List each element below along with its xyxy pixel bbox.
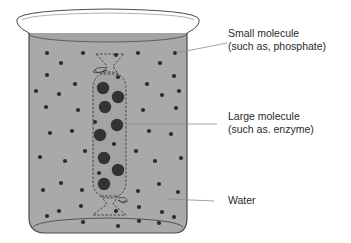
small-molecule-dot [63, 159, 67, 163]
small-molecule-dot [177, 89, 181, 93]
small-molecule-dot [97, 171, 101, 175]
small-molecule-dot [169, 132, 173, 136]
large-molecule-dot [112, 164, 124, 176]
small-molecule-dot [45, 73, 49, 77]
label-large-molecule-title: Large molecule [228, 110, 314, 123]
small-molecule-dot [45, 214, 49, 218]
small-molecule-dot [137, 219, 141, 223]
small-molecule-dot [141, 108, 145, 112]
label-small-molecule-title: Small molecule [228, 27, 326, 40]
small-molecule-dot [145, 82, 149, 86]
small-molecule-dot [41, 188, 45, 192]
label-large-molecule-example: (such as. enzyme) [228, 123, 314, 136]
large-molecule-dot [94, 129, 106, 141]
small-molecule-dot [59, 61, 63, 65]
small-molecule-dot [73, 82, 77, 86]
small-molecule-dot [157, 182, 161, 186]
small-molecule-dot [76, 108, 80, 112]
label-large-molecule: Large molecule (such as. enzyme) [228, 110, 314, 136]
small-molecule-dot [134, 149, 138, 153]
label-small-molecule: Small molecule (such as, phosphate) [228, 27, 326, 53]
small-molecule-dot [59, 181, 63, 185]
large-molecule-dot [99, 101, 111, 113]
small-molecule-dot [176, 190, 180, 194]
small-molecule-dot [158, 61, 162, 65]
small-molecule-dot [44, 105, 48, 109]
small-molecule-dot [136, 51, 140, 55]
small-molecule-dot [93, 120, 97, 124]
small-molecule-dot [34, 89, 38, 93]
small-molecule-dot [116, 224, 120, 228]
large-molecule-dot [111, 119, 123, 131]
small-molecule-dot [137, 205, 141, 209]
small-molecule-dot [147, 129, 151, 133]
large-molecule-dot [98, 152, 110, 164]
large-molecule-dot [97, 82, 109, 94]
small-molecule-dot [153, 159, 157, 163]
small-molecule-dot [172, 215, 176, 219]
small-molecule-dot [172, 74, 176, 78]
large-molecule-dot [98, 178, 110, 190]
label-small-molecule-example: (such as, phosphate) [228, 40, 326, 53]
small-molecule-dot [160, 93, 164, 97]
small-molecule-dot [160, 210, 164, 214]
small-molecule-dot [83, 149, 87, 153]
small-molecule-dot [57, 209, 61, 213]
small-molecule-dot [114, 209, 118, 213]
small-molecule-dot [38, 155, 42, 159]
small-molecule-dot [45, 51, 49, 55]
small-molecule-dot [48, 131, 52, 135]
small-molecule-dot [80, 188, 84, 192]
small-molecule-dot [114, 53, 118, 57]
large-molecule-dot [112, 91, 124, 103]
small-molecule-dot [57, 92, 61, 96]
label-water: Water [228, 194, 256, 207]
small-molecule-dot [174, 106, 178, 110]
small-molecule-dot [81, 51, 85, 55]
small-molecule-dot [179, 156, 183, 160]
small-molecule-dot [112, 142, 116, 146]
small-molecule-dot [70, 129, 74, 133]
small-molecule-dot [81, 220, 85, 224]
small-molecule-dot [157, 221, 161, 225]
small-molecule-dot [79, 204, 83, 208]
label-water-title: Water [228, 194, 256, 207]
small-molecule-dot [136, 189, 140, 193]
small-molecule-dot [116, 75, 120, 79]
